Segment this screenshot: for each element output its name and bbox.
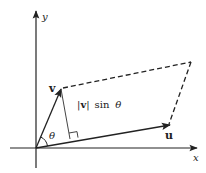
parallelogram-area-diagram: y x v u θ |v|sinθ	[0, 0, 206, 173]
parallelogram-right-edge	[169, 62, 191, 124]
height-label: |v|sinθ	[77, 99, 121, 111]
parallelogram-top-edge	[63, 62, 191, 88]
right-angle-marker	[69, 132, 78, 138]
height-label-func: sin	[95, 99, 110, 110]
vector-u-label: u	[165, 129, 173, 142]
vector-v-label: v	[48, 82, 56, 95]
x-axis-label: x	[193, 152, 199, 163]
vector-u	[36, 125, 170, 148]
angle-arc	[41, 137, 48, 146]
height-line	[61, 89, 70, 139]
height-label-angle: θ	[115, 99, 121, 110]
y-axis-label: y	[41, 11, 48, 22]
height-label-close-bar: |	[86, 99, 89, 111]
angle-theta-label: θ	[49, 130, 55, 141]
